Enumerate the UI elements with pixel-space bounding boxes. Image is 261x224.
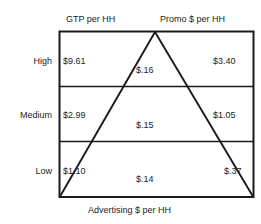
value-gtp-medium: $2.99 <box>63 110 86 121</box>
value-promo-high: $3.40 <box>213 56 236 67</box>
row-label-high: High <box>0 56 52 67</box>
value-gtp-high: $9.61 <box>63 56 86 67</box>
value-advertising-medium: $.15 <box>136 120 154 131</box>
top-right-column-label: Promo $ per HH <box>160 14 225 25</box>
bottom-axis-label: Advertising $ per HH <box>88 205 171 216</box>
row-label-medium: Medium <box>0 110 52 121</box>
value-promo-medium: $1.05 <box>213 110 236 121</box>
value-advertising-low: $.14 <box>136 174 154 185</box>
value-gtp-low: $1.10 <box>63 166 86 177</box>
row-label-low: Low <box>0 166 52 177</box>
top-left-column-label: GTP per HH <box>66 14 115 25</box>
value-advertising-high: $.16 <box>136 65 154 76</box>
value-promo-low: $.37 <box>224 166 242 177</box>
